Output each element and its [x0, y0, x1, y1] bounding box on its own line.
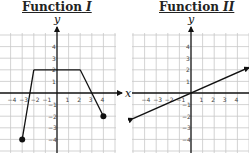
- x-tick-label: 2: [77, 96, 81, 103]
- closed-endpoint: [19, 136, 25, 142]
- y-tick-label: −2: [182, 113, 191, 120]
- y-tick-label: −3: [182, 124, 191, 131]
- x-tick-label: 4: [234, 96, 238, 103]
- y-tick-label: 1: [186, 78, 190, 85]
- y-tick-label: −4: [182, 136, 191, 143]
- x-tick-label: −4: [142, 96, 151, 103]
- y-tick-label: 2: [186, 66, 190, 73]
- x-tick-label: 4: [100, 96, 104, 103]
- x-tick-label: 2: [211, 96, 215, 103]
- y-axis-label: y: [187, 13, 195, 26]
- x-tick-label: −3: [153, 96, 162, 103]
- y-tick-label: −2: [48, 113, 57, 120]
- x-tick-label: 1: [200, 96, 204, 103]
- x-tick-label: 3: [223, 96, 227, 103]
- charts-canvas: xy−4−3−2−11234−4−3−2−11234xy−4−3−2−11234…: [0, 0, 249, 153]
- y-tick-label: −1: [48, 101, 57, 108]
- y-tick-label: 4: [186, 43, 190, 50]
- function-1-plot: xy−4−3−2−11234−4−3−2−11234: [0, 13, 132, 153]
- x-tick-label: 1: [66, 96, 70, 103]
- x-tick-label: 3: [89, 96, 93, 103]
- y-tick-label: 1: [52, 78, 56, 85]
- function-2-plot: xy−4−3−2−11234−4−3−2−11234: [132, 13, 249, 153]
- y-tick-label: 3: [52, 55, 56, 62]
- x-tick-label: −2: [31, 96, 40, 103]
- y-tick-label: 4: [52, 43, 56, 50]
- x-tick-label: −3: [19, 96, 28, 103]
- y-tick-label: −3: [48, 124, 57, 131]
- y-tick-label: −4: [48, 136, 57, 143]
- closed-endpoint: [100, 113, 106, 119]
- y-axis-label: y: [53, 13, 61, 26]
- y-tick-label: 3: [186, 55, 190, 62]
- x-axis-label: x: [125, 87, 132, 100]
- x-tick-label: −4: [8, 96, 17, 103]
- y-tick-label: −1: [182, 101, 191, 108]
